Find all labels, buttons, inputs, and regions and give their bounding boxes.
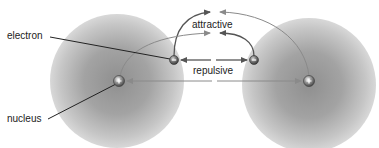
left-electron bbox=[170, 56, 179, 65]
force-arrows bbox=[0, 0, 379, 148]
nucleus-label: nucleus bbox=[7, 114, 41, 124]
left-nucleus bbox=[114, 76, 125, 87]
nucleus-leader-line bbox=[48, 84, 116, 119]
repulsive-label: repulsive bbox=[193, 66, 233, 76]
attractive-arrow-right-nucleus bbox=[220, 12, 309, 76]
electron-label: electron bbox=[7, 31, 43, 41]
electron-leader-line bbox=[50, 37, 170, 59]
covalent-bond-diagram: electron nucleus attractive repulsive bbox=[0, 0, 379, 148]
attractive-arrow-right-electron bbox=[220, 33, 254, 56]
attractive-label: attractive bbox=[192, 20, 233, 30]
right-electron bbox=[250, 56, 259, 65]
right-nucleus bbox=[304, 76, 315, 87]
